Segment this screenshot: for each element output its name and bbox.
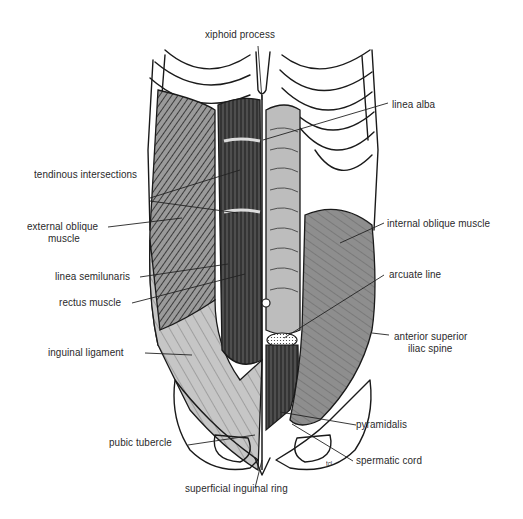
- label-arcuate-line: arcuate line: [389, 268, 441, 281]
- label-pubic-tubercle: pubic tubercle: [109, 436, 172, 449]
- label-pyramidalis: pyramidalis: [356, 418, 407, 431]
- label-superficial-inguinal-ring: superficial inguinal ring: [185, 482, 288, 495]
- label-spermatic-cord: spermatic cord: [356, 454, 422, 467]
- xiphoid-process: [256, 52, 270, 94]
- label-tendinous-intersections: tendinous intersections: [34, 168, 137, 181]
- label-linea-semilunaris: linea semilunaris: [55, 270, 130, 283]
- artist-signature: tcl: [326, 457, 332, 470]
- label-asis-line2: iliac spine: [408, 342, 452, 355]
- label-external-oblique-line2: muscle: [48, 232, 80, 245]
- label-linea-alba: linea alba: [392, 98, 435, 111]
- umbilicus: [262, 299, 270, 307]
- label-rectus-muscle: rectus muscle: [59, 296, 121, 309]
- label-xiphoid-process: xiphoid process: [205, 28, 275, 41]
- label-internal-oblique-muscle: internal oblique muscle: [387, 217, 490, 230]
- internal-oblique-muscle: [290, 209, 375, 425]
- rectus-sheath-right: [266, 105, 300, 334]
- abdominal-wall-illustration: [0, 0, 523, 519]
- label-inguinal-ligament: inguinal ligament: [48, 346, 124, 359]
